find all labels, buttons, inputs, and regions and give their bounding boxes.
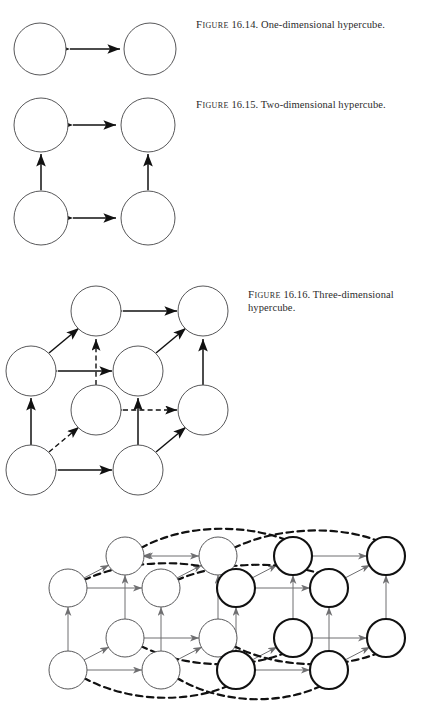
node-front-br: [113, 445, 163, 495]
node-layer: [14, 98, 175, 245]
edge-b-fronttr-backtr: [345, 565, 370, 578]
node-back-tr: [178, 286, 228, 336]
cube-b-node-layer: [217, 537, 405, 689]
link-backtr: [234, 530, 389, 548]
node-a-back-bl: [106, 619, 144, 657]
figure-one-dimensional-hypercube: [0, 8, 190, 90]
caption-text: Two-dimensional hypercube.: [261, 99, 386, 110]
node-b: [124, 23, 176, 75]
node-layer: [6, 286, 228, 495]
cube-b-edge-layer: [236, 556, 386, 670]
node-b-front-tr: [310, 569, 348, 607]
node-br: [121, 191, 175, 245]
edge-frontbr-backbr: [156, 427, 186, 452]
node-a-front-tr: [142, 569, 180, 607]
node-b-front-tl: [217, 569, 255, 607]
node-back-bl: [71, 385, 121, 435]
edge-b-fronttl-backtl: [252, 565, 277, 578]
node-a-back-tl: [106, 537, 144, 575]
node-back-br: [178, 385, 228, 435]
node-front-tr: [113, 346, 163, 396]
edge-fronttr-backtr: [156, 328, 186, 353]
node-b-back-tl: [274, 537, 312, 575]
caption-figure-16-15: Figure 16.15. Two-dimensional hypercube.: [196, 98, 431, 111]
figure-three-dimensional-hypercube: [0, 282, 246, 510]
node-b-back-tr: [367, 537, 405, 575]
caption-number: 16.15.: [231, 99, 258, 110]
caption-number: 16.16.: [283, 289, 310, 300]
edge-frontbl-backbl: [49, 427, 79, 452]
caption-figure-16-14: Figure 16.14. One-dimensional hypercube.: [196, 18, 431, 31]
node-a-front-tl: [49, 569, 87, 607]
edge-fronttl-backtl: [49, 328, 79, 353]
figure-page: Figure 16.14. One-dimensional hypercube.…: [0, 0, 433, 723]
link-frontbr: [177, 678, 332, 699]
caption-text: One-dimensional hypercube.: [261, 19, 385, 30]
node-b-back-bl: [274, 619, 312, 657]
caption-figure-word: Figure: [196, 18, 229, 30]
caption-figure-16-16: Figure 16.16. Three-dimensional hypercub…: [248, 288, 426, 314]
node-back-tl: [71, 286, 121, 336]
cube-a-node-layer: [49, 537, 237, 689]
node-bl: [14, 191, 68, 245]
edge-layer: [31, 311, 203, 470]
node-a: [14, 23, 66, 75]
node-tr: [121, 98, 175, 152]
cube-a-edge-layer: [68, 556, 218, 670]
caption-figure-word: Figure: [248, 288, 281, 300]
node-tl: [14, 98, 68, 152]
node-a-front-bl: [49, 651, 87, 689]
node-b-front-br: [310, 651, 348, 689]
caption-number: 16.14.: [231, 19, 258, 30]
edge-a-frontbl-backbl: [84, 647, 109, 660]
node-front-tl: [6, 346, 56, 396]
node-b-front-bl: [217, 651, 255, 689]
figure-four-dimensional-hypercube: [28, 518, 428, 718]
edge-a-frontbr-backbr: [177, 647, 202, 660]
node-front-bl: [6, 445, 56, 495]
caption-figure-word: Figure: [196, 98, 229, 110]
node-a-front-br: [142, 651, 180, 689]
node-b-back-br: [367, 619, 405, 657]
figure-two-dimensional-hypercube: [0, 90, 190, 250]
